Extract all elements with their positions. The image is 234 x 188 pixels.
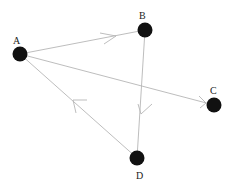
node-c[interactable] [207,98,222,113]
node-label-c: C [210,85,217,96]
node-label-b: B [139,10,146,21]
node-d[interactable] [130,151,145,166]
edge-a-b [20,30,145,54]
arrowhead-d-a [73,100,87,113]
edge-b-d [137,30,145,158]
node-a[interactable] [13,47,28,62]
node-b[interactable] [138,23,153,38]
edges [20,30,214,158]
node-label-a: A [13,35,21,46]
nodes [13,23,222,166]
graph-canvas: A B C D [0,0,234,188]
node-label-d: D [136,170,143,181]
